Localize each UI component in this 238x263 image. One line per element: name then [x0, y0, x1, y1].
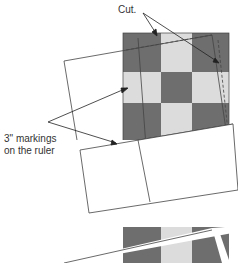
checkerboard-bottom — [60, 226, 238, 263]
markings-label-line2: on the ruler — [4, 145, 55, 157]
markings-label-line1: 3" markings — [4, 133, 56, 145]
diagram — [0, 0, 238, 263]
cut-label: Cut. — [118, 4, 136, 16]
